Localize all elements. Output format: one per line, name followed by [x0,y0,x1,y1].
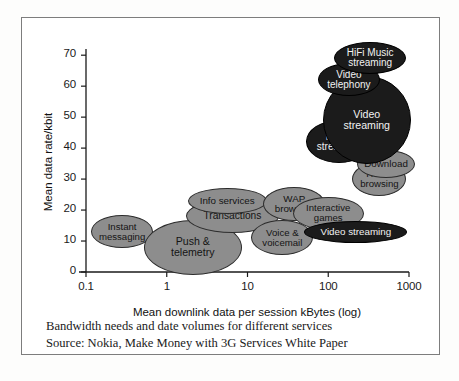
bubble-label-line-2: streaming [346,58,395,68]
bubble-label: Videostreaming [343,109,392,131]
x-axis-label: Mean downlink data per session kBytes (l… [62,306,432,318]
bubble-label-line-2: browsing [359,179,399,189]
bubble-video-streaming: Video streaming [304,221,407,243]
y-axis-tick-0: 0 [50,264,76,276]
bubble-info-services: Info services [188,188,267,214]
x-axis-tick-1: 1 [141,280,193,292]
y-axis-label: Mean data rate/kbit [42,87,54,237]
y-axis-tick-70: 70 [50,47,76,59]
figure-caption: Bandwidth needs and date volumes for dif… [46,318,426,351]
x-axis-tick-1000: 1000 [383,280,435,292]
bubble-label-line-2: streaming [343,120,392,131]
bubble-label: Video streaming [320,227,393,237]
x-axis-tick-0.1: 0.1 [60,280,112,292]
bubble-label: HiFi Musicstreaming [346,48,395,68]
bubble-label-line-2: telemetry [170,247,216,258]
bubble-label: Interactivegames [305,203,351,223]
bubble-label-line-2: messaging [98,232,146,242]
bubble-label: Push &telemetry [170,236,216,258]
bubble-label-line-2: telephony [326,80,371,90]
bubble-label-line-1: Video streaming [320,227,393,237]
x-axis-tick-100: 100 [302,280,354,292]
bubble-label-line-2: voicemail [261,238,303,248]
bubble-label-line-1: Info services [199,196,256,206]
bubble-label: Info services [199,196,256,206]
bubble-label: Voice &voicemail [261,228,303,248]
x-axis-tick-10: 10 [222,280,274,292]
caption-line-1: Bandwidth needs and date volumes for dif… [46,318,426,335]
figure-frame: 010203040506070 0.11101001000 Mean data … [21,17,440,355]
bubble-label: Instantmessaging [98,222,146,242]
chart-plot-area: 010203040506070 0.11101001000 Mean data … [22,18,441,356]
caption-line-2: Source: Nokia, Make Money with 3G Servic… [46,335,426,352]
